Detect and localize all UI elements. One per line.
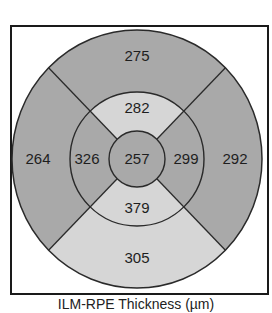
chart-caption: ILM-RPE Thickness (µm) bbox=[0, 296, 272, 312]
value-outer-right: 292 bbox=[222, 150, 247, 167]
value-outer-left: 264 bbox=[25, 150, 50, 167]
value-inner-bottom: 379 bbox=[124, 199, 149, 216]
value-outer-bottom: 305 bbox=[124, 249, 149, 266]
value-center: 257 bbox=[124, 150, 149, 167]
value-inner-left: 326 bbox=[74, 150, 99, 167]
value-inner-right: 299 bbox=[173, 150, 198, 167]
value-outer-top: 275 bbox=[124, 47, 149, 64]
value-inner-top: 282 bbox=[124, 99, 149, 116]
thickness-map: 275 264 292 305 282 326 299 379 257 bbox=[0, 0, 272, 313]
